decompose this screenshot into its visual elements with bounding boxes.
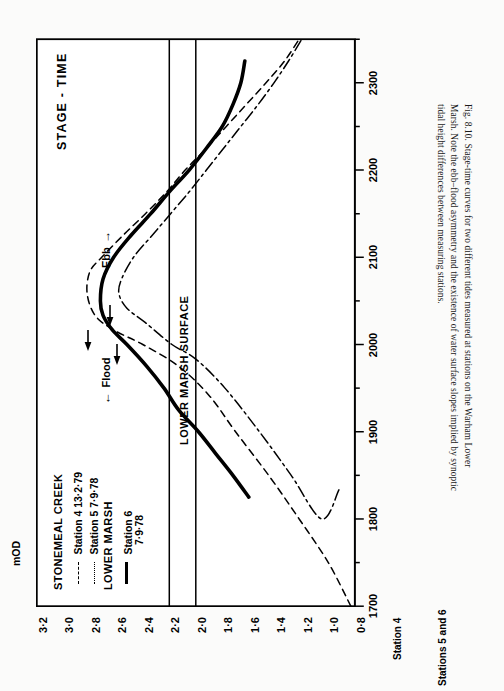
value-tick-label: 0·8	[355, 617, 367, 643]
ebb-label: Ebb	[100, 247, 112, 268]
legend-swatch-dashdot	[94, 562, 95, 584]
legend: STONEMEAL CREEK Station 4 13·2·79 Statio…	[52, 410, 172, 590]
ebb-arrow-icon: →	[99, 231, 113, 243]
value-tick-label: 2·6	[116, 617, 128, 643]
legend-label-station5: Station 5 7·9·78	[89, 478, 100, 555]
flood-annotation: ← Flood	[96, 358, 114, 404]
value-tick-label: 1·4	[275, 617, 287, 643]
legend-label-station4: Station 4 13·2·79	[73, 472, 84, 555]
ebb-annotation: Ebb →	[96, 231, 114, 268]
value-tick-label: 2·8	[90, 617, 102, 643]
caption-line: Fig. 8.10. Stage-time curves for two dif…	[460, 104, 474, 664]
time-tick-label-station4: 2300	[367, 71, 379, 95]
time-tick-label-station4: 1800	[367, 507, 379, 531]
legend-group-lowermarsh-title: LOWER MARSH	[102, 501, 114, 590]
time-tick-label-station4: 1900	[367, 419, 379, 443]
legend-label-station6: Station 6	[123, 511, 134, 555]
caption-line: Marsh. Note the ebb–flood asymmetry and …	[447, 104, 461, 664]
legend-item-station5: Station 5 7·9·78	[84, 478, 102, 584]
flood-arrow-icon: ←	[99, 392, 113, 404]
legend-group-stonemeal-title: STONEMEAL CREEK	[52, 474, 64, 590]
time-tick-label-station4: 1700	[367, 594, 379, 618]
value-axis-label: mOD	[10, 541, 22, 566]
value-tick-label: 2·0	[196, 617, 208, 643]
time-tick-label-station4: 2100	[367, 245, 379, 269]
time-axis-1-title: Station 4	[392, 618, 403, 660]
legend-label-station6-date: 7·9·78	[134, 515, 145, 545]
page-title: STAGE - TIME	[55, 53, 69, 151]
flood-label: Flood	[100, 358, 112, 388]
legend-swatch-dashed	[78, 562, 79, 584]
value-tick-label: 2·2	[169, 617, 181, 643]
value-tick-label: 1·2	[302, 617, 314, 643]
lower-marsh-surface-label: LOWER MARSH SURFACE	[178, 296, 190, 445]
legend-swatch-solid	[125, 562, 128, 584]
caption-line: tidal height differences between measuri…	[433, 104, 447, 664]
value-tick-label: 2·4	[143, 617, 155, 643]
time-axis-station4	[355, 39, 364, 606]
time-tick-label-station4: 2200	[367, 158, 379, 182]
value-tick-label: 3·0	[63, 617, 75, 643]
value-tick-label: 1·0	[328, 617, 340, 643]
value-tick-label: 1·6	[249, 617, 261, 643]
value-tick-label: 3·2	[37, 617, 49, 643]
time-tick-label-station4: 2000	[367, 332, 379, 356]
figure-container: STAGE - TIME STONEMEAL CREEK Station 4 1…	[0, 0, 504, 691]
figure-caption: Fig. 8.10. Stage-time curves for two dif…	[433, 104, 474, 664]
value-tick-label: 1·8	[222, 617, 234, 643]
